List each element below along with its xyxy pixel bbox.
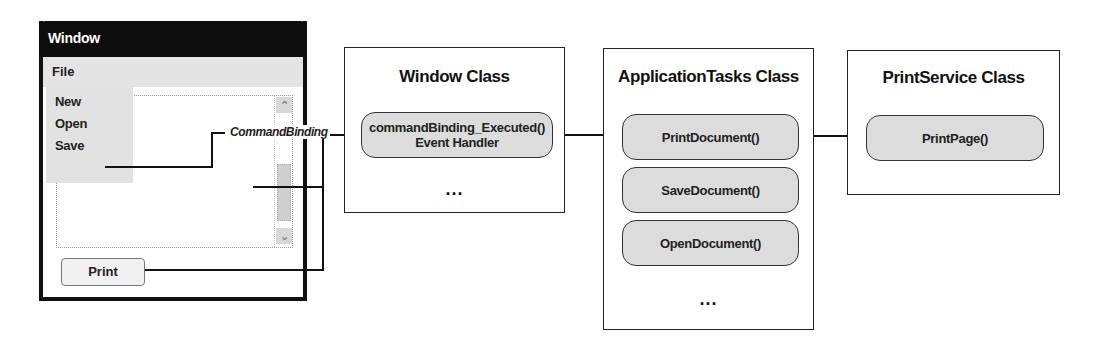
window-class-title: Window Class — [345, 67, 564, 87]
method-print-page: PrintPage() — [866, 115, 1044, 161]
scroll-down-icon[interactable]: ⌄ — [276, 228, 292, 244]
window-title-bar: Window — [39, 21, 307, 57]
method-label: SaveDocument() — [623, 183, 798, 198]
method-save-document: SaveDocument() — [622, 167, 799, 213]
window-title: Window — [48, 30, 100, 46]
file-dropdown-menu: New Open Save — [46, 87, 133, 183]
print-service-class-title: PrintService Class — [848, 68, 1059, 88]
handler-caption: Event Handler — [362, 135, 552, 150]
menu-item-open[interactable]: Open — [55, 116, 87, 131]
event-handler-pill: commandBinding_Executed() Event Handler — [361, 112, 553, 158]
method-label: OpenDocument() — [623, 236, 798, 251]
menu-bar: File — [43, 57, 303, 87]
method-print-document: PrintDocument() — [622, 114, 799, 160]
scrollbar[interactable]: ⌃ ⌄ — [274, 96, 292, 247]
handler-method: commandBinding_Executed() — [362, 120, 552, 135]
method-label: PrintPage() — [867, 131, 1043, 146]
method-open-document: OpenDocument() — [622, 220, 799, 266]
application-tasks-ellipsis: ... — [604, 289, 813, 310]
scroll-up-icon[interactable]: ⌃ — [276, 97, 292, 113]
window-class-ellipsis: ... — [345, 179, 564, 200]
method-label: PrintDocument() — [623, 130, 798, 145]
print-button[interactable]: Print — [61, 258, 145, 286]
scroll-thumb[interactable] — [277, 164, 291, 221]
application-tasks-class-title: ApplicationTasks Class — [604, 67, 813, 87]
menu-file[interactable]: File — [52, 64, 74, 79]
menu-item-new[interactable]: New — [55, 94, 81, 109]
menu-item-save[interactable]: Save — [55, 138, 84, 153]
command-binding-label: CommandBinding — [228, 125, 330, 139]
